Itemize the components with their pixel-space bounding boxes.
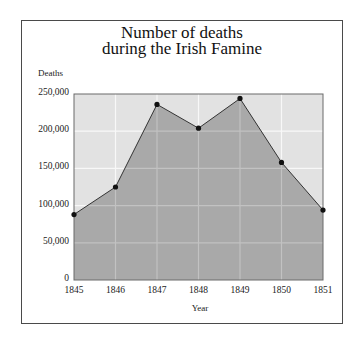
data-point-1851 — [320, 207, 325, 212]
data-point-1845 — [71, 212, 76, 217]
y-tick-label: 200,000 — [19, 124, 69, 134]
x-tick-label: 1847 — [142, 285, 172, 295]
y-tick-label: 100,000 — [19, 199, 69, 209]
data-point-1847 — [154, 102, 159, 107]
x-tick-label: 1851 — [308, 285, 338, 295]
x-tick-label: 1845 — [59, 285, 89, 295]
x-tick-label: 1850 — [267, 285, 297, 295]
x-axis-label: Year — [185, 303, 215, 313]
data-point-1848 — [196, 126, 201, 131]
x-tick-label: 1849 — [225, 285, 255, 295]
x-tick-label: 1846 — [101, 285, 131, 295]
data-point-1850 — [279, 160, 284, 165]
data-point-1849 — [237, 96, 242, 101]
y-tick-label: 0 — [19, 273, 69, 283]
y-tick-label: 50,000 — [19, 236, 69, 246]
x-tick-label: 1848 — [184, 285, 214, 295]
data-point-1846 — [113, 184, 118, 189]
y-tick-label: 250,000 — [19, 87, 69, 97]
y-tick-label: 150,000 — [19, 161, 69, 171]
